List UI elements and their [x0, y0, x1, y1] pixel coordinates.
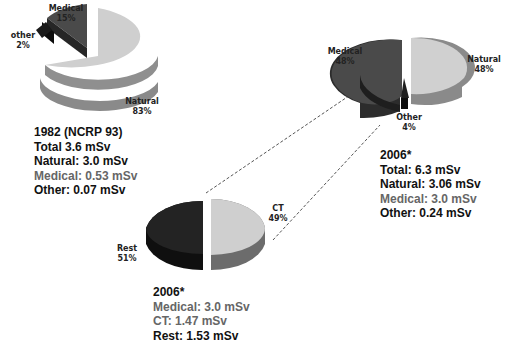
label-name: Natural — [462, 55, 506, 65]
summary-ct: CT: 1.47 mSv — [153, 314, 250, 329]
summary-medical: Medical: 3.0 mSv — [380, 192, 481, 207]
summary-natural: Natural: 3.06 mSv — [380, 177, 481, 192]
label-name: Medical — [46, 4, 86, 14]
label-1982-natural: Natural 83% — [120, 97, 164, 117]
label-name: CT — [264, 204, 292, 214]
label-2006-natural: Natural 48% — [462, 55, 506, 75]
label-pct: 51% — [112, 254, 142, 264]
summary-other: Other: 0.24 mSv — [380, 206, 481, 221]
summary-total: Total: 6.3 mSv — [380, 163, 481, 178]
label-name: Rest — [112, 244, 142, 254]
summary-natural: Natural: 3.0 mSv — [34, 154, 137, 169]
label-1982-other: other 2% — [6, 31, 40, 51]
label-2006-rest: Rest 51% — [112, 244, 142, 264]
label-2006-medical: Medical 48% — [322, 47, 368, 67]
summary-2006: 2006* Total: 6.3 mSv Natural: 3.06 mSv M… — [380, 148, 481, 221]
label-pct: 2% — [6, 41, 40, 51]
label-2006-other: Other 4% — [392, 113, 426, 133]
summary-2006-medical: 2006* Medical: 3.0 mSv CT: 1.47 mSv Rest… — [153, 285, 250, 343]
label-pct: 48% — [322, 57, 368, 67]
summary-1982: 1982 (NCRP 93) Total 3.6 mSv Natural: 3.… — [34, 125, 137, 198]
summary-medical: Medical: 0.53 mSv — [34, 169, 137, 184]
summary-rest: Rest: 1.53 mSv — [153, 329, 250, 344]
label-pct: 49% — [264, 214, 292, 224]
label-name: Natural — [120, 97, 164, 107]
summary-title: 2006* — [380, 148, 481, 163]
pie-2006-medical — [146, 199, 265, 270]
label-2006-ct: CT 49% — [264, 204, 292, 224]
summary-title: 2006* — [153, 285, 250, 300]
summary-medical: Medical: 3.0 mSv — [153, 300, 250, 315]
summary-total: Total 3.6 mSv — [34, 140, 137, 155]
label-pct: 83% — [120, 107, 164, 117]
label-name: other — [6, 31, 40, 41]
label-pct: 15% — [46, 14, 86, 24]
label-pct: 48% — [462, 65, 506, 75]
summary-title: 1982 (NCRP 93) — [34, 125, 137, 140]
label-name: Medical — [322, 47, 368, 57]
label-pct: 4% — [392, 123, 426, 133]
label-name: Other — [392, 113, 426, 123]
label-1982-medical: Medical 15% — [46, 4, 86, 24]
summary-other: Other: 0.07 mSv — [34, 183, 137, 198]
